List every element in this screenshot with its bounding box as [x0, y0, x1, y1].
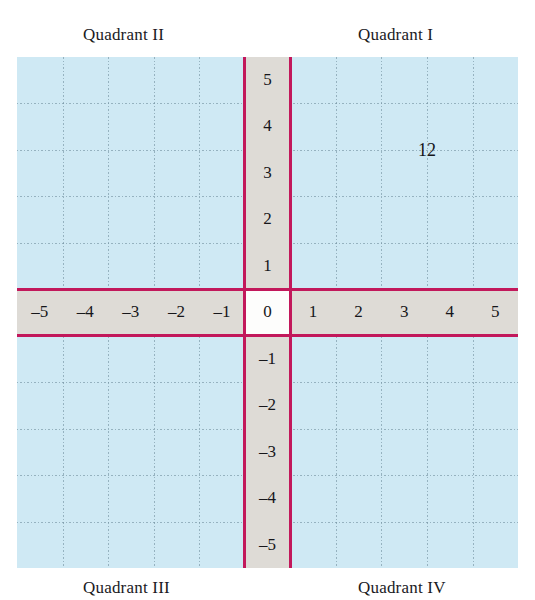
x-axis-tick-label: 4	[427, 289, 473, 335]
y-axis-tick-label: –5	[245, 522, 291, 568]
x-axis-tick-label: –3	[108, 289, 154, 335]
x-axis-tick-label: 5	[473, 289, 519, 335]
quadrant-label-4: Quadrant IV	[358, 578, 446, 598]
y-axis-tick-label: 2	[245, 196, 291, 242]
x-axis-tick-label: –5	[17, 289, 63, 335]
y-axis-tick-label: 4	[245, 103, 291, 149]
y-axis-tick-label: –4	[245, 475, 291, 521]
quadrant-label-3: Quadrant III	[83, 578, 170, 598]
x-axis-tick-label: –4	[63, 289, 109, 335]
quadrant-label-2: Quadrant II	[83, 25, 164, 45]
y-axis-tick-label: –3	[245, 429, 291, 475]
y-axis-tick-label: –1	[245, 336, 291, 382]
coordinate-plane: –5–4–3–2–11234554321–1–2–3–4–5012	[17, 57, 518, 568]
y-axis-tick-label: –2	[245, 382, 291, 428]
x-axis-tick-label: –2	[154, 289, 200, 335]
origin-label: 0	[245, 289, 291, 335]
y-axis-tick-label: 5	[245, 57, 291, 103]
quadrant-label-1: Quadrant I	[358, 25, 433, 45]
plot-annotation: 12	[418, 139, 436, 160]
x-axis-tick-label: –1	[199, 289, 245, 335]
x-axis-tick-label: 3	[381, 289, 427, 335]
x-axis-tick-label: 2	[336, 289, 382, 335]
y-axis-tick-label: 3	[245, 150, 291, 196]
y-axis-tick-label: 1	[245, 243, 291, 289]
x-axis-tick-label: 1	[290, 289, 336, 335]
